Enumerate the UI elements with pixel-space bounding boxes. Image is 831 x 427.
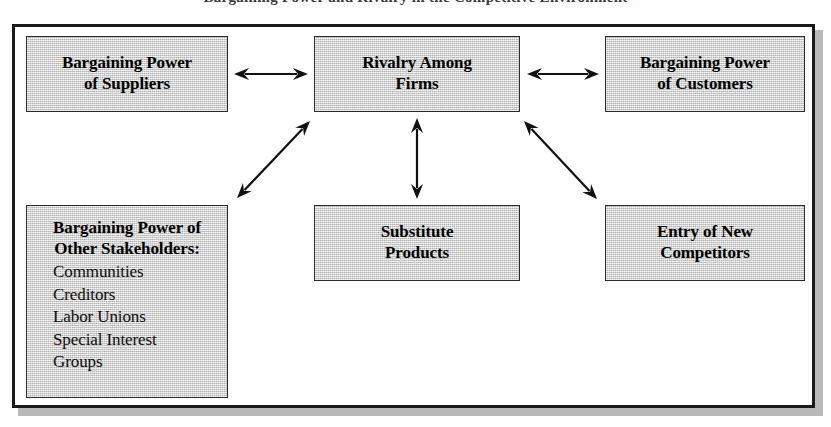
arrow-shaft-stakeholders-rivalry <box>245 129 303 190</box>
arrow-layer <box>0 0 831 427</box>
arrow-shaft-rivalry-entrants <box>532 129 590 191</box>
arrows-svg <box>0 0 831 427</box>
diagram-screenshot: Bargaining Power and Rivalry in the Comp… <box>0 0 831 427</box>
